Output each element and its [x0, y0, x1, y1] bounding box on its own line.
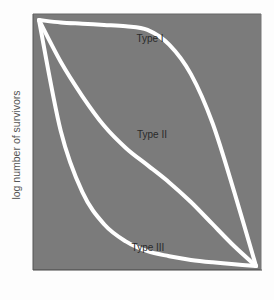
- y-axis-label: log number of survivors: [10, 90, 22, 199]
- survivorship-chart: [0, 0, 274, 300]
- plot-area: [33, 14, 261, 270]
- type-ii-label: Type II: [137, 129, 167, 140]
- type-iii-label: Type III: [132, 242, 165, 253]
- type-i-label: Type I: [136, 33, 163, 44]
